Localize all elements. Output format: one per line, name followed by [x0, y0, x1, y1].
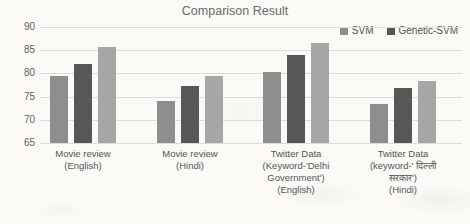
y-axis-tick-label: 70 [11, 115, 35, 125]
comparison-bar-chart: Comparison Result SVMGenetic-SVM 9085807… [0, 0, 470, 224]
bar-svm-group4 [370, 104, 388, 143]
y-axis-tick-label: 85 [11, 45, 35, 55]
category-axis: Movie review (English)Movie review (Hind… [40, 148, 462, 224]
bar-series3-group4 [418, 81, 436, 143]
bar-group-1 [50, 27, 116, 143]
bar-genetic-svm-group3 [287, 55, 305, 143]
bar-genetic-svm-group2 [181, 86, 199, 143]
bar-series3-group1 [98, 47, 116, 143]
category-label-4: Twitter Data (keyword-' दिल्ली सरकार') (… [341, 148, 465, 196]
bar-group-3 [263, 27, 329, 143]
chart-title: Comparison Result [0, 4, 470, 18]
bar-svm-group1 [50, 76, 68, 143]
y-axis-tick-label: 90 [11, 22, 35, 32]
y-axis-tick-label: 75 [11, 92, 35, 102]
bar-svm-group2 [157, 101, 175, 143]
bar-group-4 [370, 27, 436, 143]
plot-area: 908580757065 [40, 27, 462, 143]
category-label-3: Twitter Data (Keyword-'Delhi Government'… [234, 148, 358, 196]
bar-group-2 [157, 27, 223, 143]
bar-series3-group2 [205, 76, 223, 143]
bar-series3-group3 [311, 43, 329, 143]
bar-svm-group3 [263, 72, 281, 143]
category-label-1: Movie review (English) [21, 148, 145, 172]
gridline-y65: 65 [40, 143, 462, 144]
y-axis-tick-label: 65 [11, 138, 35, 148]
y-axis-tick-label: 80 [11, 68, 35, 78]
bar-genetic-svm-group4 [394, 88, 412, 143]
bar-genetic-svm-group1 [74, 64, 92, 143]
